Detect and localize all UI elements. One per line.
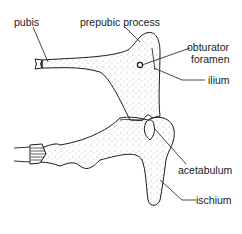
label-prepubic-process: prepubic process — [80, 17, 160, 28]
label-obturator-foramen-line1: obturator — [187, 42, 229, 53]
label-acetabulum: acetabulum — [178, 165, 232, 176]
obturator-foramen-hole — [137, 62, 142, 67]
upper-bone — [35, 32, 160, 120]
pelvic-girdle-diagram: pubis prepubic process obturator foramen… — [0, 0, 242, 234]
label-ilium: ilium — [208, 75, 230, 86]
label-ischium: ischium — [196, 195, 232, 206]
label-pubis: pubis — [14, 17, 39, 28]
label-obturator-foramen-line2: foramen — [191, 54, 230, 65]
lower-bone — [14, 117, 174, 205]
